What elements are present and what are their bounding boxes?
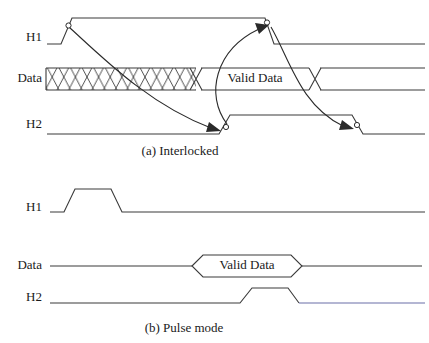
panel-a-waveform-h2 bbox=[47, 115, 425, 134]
panel-b: H1 Data Valid Data H2 (b) Pulse mode bbox=[17, 189, 425, 335]
panel-a-data-valid-label: Valid Data bbox=[227, 70, 282, 85]
panel-a-data-invalid-hatch bbox=[46, 68, 196, 90]
timing-diagram-figure: H1 Data Valid Data H2 bbox=[0, 0, 429, 343]
panel-a-edge-marker-h2-fall bbox=[354, 122, 359, 127]
panel-b-waveform-h1 bbox=[50, 189, 425, 212]
panel-a-caption: (a) Interlocked bbox=[142, 143, 219, 158]
panel-a-label-h2: H2 bbox=[26, 116, 42, 131]
panel-a-arrowhead-h2fall bbox=[339, 120, 354, 130]
panel-a-label-data: Data bbox=[17, 70, 42, 85]
panel-b-label-data: Data bbox=[17, 257, 42, 272]
panel-a-data-trailing-rails bbox=[320, 68, 425, 90]
panel-b-label-h2: H2 bbox=[26, 289, 42, 304]
panel-a-label-h1: H1 bbox=[26, 29, 42, 44]
panel-a-edge-marker-h2-rise bbox=[223, 124, 228, 129]
panel-b-label-h1: H1 bbox=[26, 199, 42, 214]
panel-a-edge-marker-h1-rise bbox=[66, 23, 71, 28]
panel-a-edge-marker-h1-fall bbox=[264, 20, 269, 25]
timing-diagram-canvas: H1 Data Valid Data H2 bbox=[0, 0, 429, 343]
panel-b-caption: (b) Pulse mode bbox=[145, 320, 224, 335]
panel-a-waveform-h1 bbox=[47, 18, 425, 44]
panel-b-waveform-h2 bbox=[50, 288, 299, 303]
panel-a: H1 Data Valid Data H2 bbox=[17, 18, 425, 158]
panel-b-data-valid-label: Valid Data bbox=[219, 257, 274, 272]
panel-a-arrowhead-h2rise bbox=[206, 122, 221, 132]
panel-a-data-transition-right bbox=[309, 68, 321, 90]
